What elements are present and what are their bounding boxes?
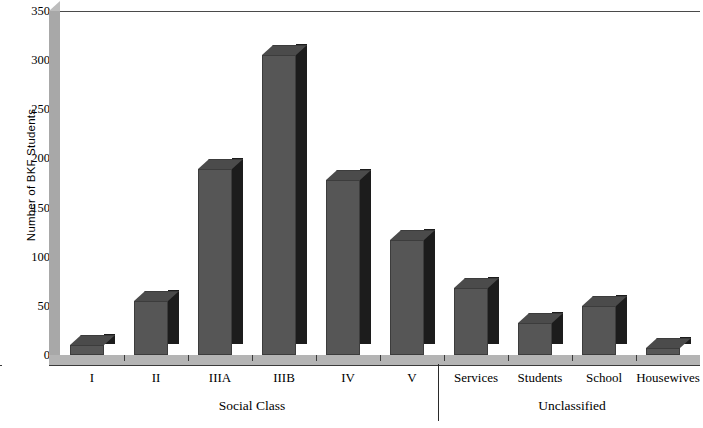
y-axis-tick-label: 150 [10,202,50,214]
x-axis-tick-mark [252,355,253,361]
x-axis-group-label: Social Class [219,398,285,414]
x-axis-baseline [49,365,700,366]
x-axis-tick-mark [124,355,125,361]
y-axis-tick-label: 350 [10,5,50,17]
plot-floor [49,355,700,365]
bar [262,44,296,355]
x-axis-category-label: IV [341,370,355,386]
y-axis-tick-group: 050100150200250300350 [8,11,50,355]
bar-side-face [296,44,307,344]
bar [134,290,168,355]
x-axis-tick-mark [636,355,637,361]
x-axis-tick-mark [444,355,445,361]
x-axis-tick-mark [188,355,189,361]
x-axis-category-label: Housewives [636,370,700,386]
bar-front-face [646,348,680,355]
bar-front-face [454,288,488,355]
bar-front-face [198,169,232,355]
bar [454,277,488,355]
y-axis-tick-label: 200 [10,152,50,164]
x-axis-category-label: V [407,370,416,386]
bar [646,337,680,355]
bar-front-face [326,180,360,355]
bar-front-face [390,240,424,355]
bar-side-face [488,277,499,344]
x-axis-category-label: IIIB [273,370,295,386]
bar-front-face [70,345,104,355]
x-axis-category-label: I [90,370,94,386]
y-axis-wall [49,11,60,355]
y-axis-tick-label: 100 [10,251,50,263]
axis-wall-top-face [49,1,60,11]
bar-front-face [582,306,616,355]
x-axis-tick-mark [572,355,573,361]
x-axis-category-label: Services [454,370,498,386]
bar-front-face [262,55,296,355]
bar-front-face [518,323,552,355]
bar-side-face [360,169,371,344]
plot-area [60,11,700,355]
plot-top-border [60,11,700,12]
bar-side-face [232,158,243,344]
bar [390,229,424,355]
y-axis-tick-label: 250 [10,103,50,115]
x-axis-category-label: Students [518,370,563,386]
bar [198,158,232,355]
bar-front-face [134,301,168,355]
x-axis-tick-mark [316,355,317,361]
bar [518,312,552,355]
y-axis-tick-label: 300 [10,54,50,66]
y-axis-tick-mark [0,365,2,366]
bar-side-face [424,229,435,344]
x-axis-tick-mark [508,355,509,361]
bar-chart: Number of BKF Students 05010015020025030… [0,0,703,428]
x-axis-tick-mark [380,355,381,361]
group-divider [438,364,439,421]
bar [326,169,360,355]
x-axis-category-label: IIIA [209,370,231,386]
bar [70,334,104,355]
y-axis-tick-label: 50 [10,300,50,312]
x-axis-group-label: Unclassified [538,398,605,414]
x-axis-category-label: School [586,370,622,386]
bar-top-face [646,338,691,348]
x-axis-category-label: II [152,370,161,386]
y-axis-tick-label: 0 [10,349,50,361]
bar [582,295,616,355]
